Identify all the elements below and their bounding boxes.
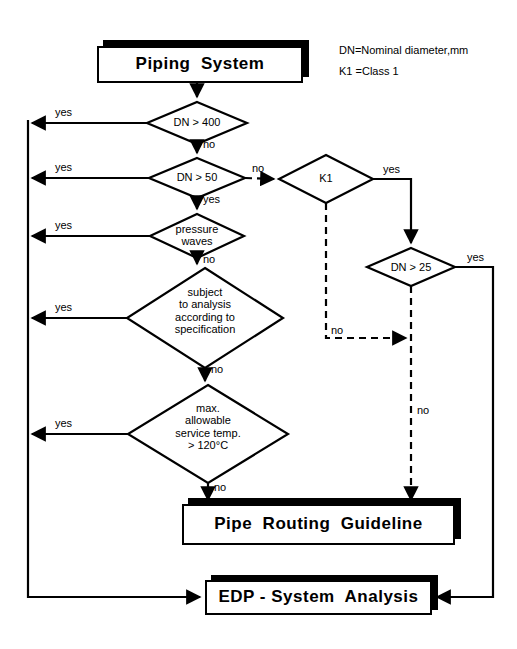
flowchart-connectors: [0, 0, 517, 649]
decision-pressure-shape: [150, 214, 244, 258]
left-rail-to-edp: [28, 120, 200, 597]
edge-label-k1-no: no: [331, 324, 343, 336]
edge-label-temp-no: no: [214, 481, 226, 493]
edge-label-dn50-yes: yes: [55, 161, 72, 173]
start-box[interactable]: Piping System: [97, 46, 303, 83]
pipe-routing-guideline-label: Pipe Routing Guideline: [214, 515, 422, 534]
legend-line-dn: DN=Nominal diameter,mm: [339, 40, 468, 61]
decision-temp-shape: [128, 385, 288, 483]
decision-subject-shape: [127, 268, 283, 368]
edge-label-k1-yes: yes: [383, 163, 400, 175]
flowchart-canvas: Piping System Pipe Routing Guideline EDP…: [0, 0, 517, 649]
edge-k1-yes-to-dn25: [373, 179, 411, 243]
legend: DN=Nominal diameter,mm K1 =Class 1: [339, 40, 468, 83]
decision-dn400-shape: [147, 102, 247, 144]
edge-label-dn50-no: no: [252, 162, 264, 174]
edge-label-subject-no: no: [211, 363, 223, 375]
edge-label-dn50-yes-down: yes: [203, 193, 220, 205]
legend-line-k1: K1 =Class 1: [339, 61, 468, 82]
edge-dn50-no-to-k1: [245, 178, 274, 179]
edge-label-pressure-no: no: [203, 253, 215, 265]
start-box-label: Piping System: [136, 55, 265, 74]
edge-label-dn25-yes: yes: [467, 251, 484, 263]
pipe-routing-guideline-box[interactable]: Pipe Routing Guideline: [182, 504, 455, 545]
edge-label-dn25-no: no: [417, 404, 429, 416]
edge-label-dn400-no: no: [203, 138, 215, 150]
edp-system-analysis-box[interactable]: EDP - System Analysis: [205, 580, 432, 615]
edge-label-temp-yes: yes: [55, 417, 72, 429]
edge-label-dn400-yes: yes: [55, 106, 72, 118]
edge-label-subject-yes: yes: [55, 301, 72, 313]
edge-label-pressure-yes: yes: [55, 219, 72, 231]
decision-dn50-shape: [149, 158, 245, 198]
edp-system-analysis-label: EDP - System Analysis: [219, 588, 419, 607]
decision-dn25-shape: [367, 248, 455, 286]
edge-dn25-yes-right-rail: [437, 267, 493, 597]
decision-k1-shape: [279, 155, 373, 203]
